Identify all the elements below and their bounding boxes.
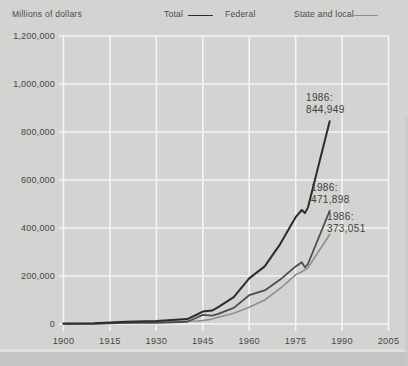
series-line-state-and-local (64, 234, 330, 323)
annotation-year: 1986: (327, 211, 366, 223)
x-tick-label: 1900 (53, 336, 75, 346)
x-tick-label: 2005 (378, 336, 400, 346)
annotation-total-1986: 1986: 844,949 (306, 92, 345, 115)
chart-figure: Millions of dollars Total Federal State … (0, 0, 408, 366)
y-tick-label: 0 (50, 319, 55, 329)
y-tick-label: 600,000 (21, 175, 55, 185)
annotation-value: 373,051 (327, 223, 366, 235)
y-tick-label: 1,000,000 (13, 79, 55, 89)
y-tick-label: 200,000 (21, 271, 55, 281)
annotation-year: 1986: (311, 182, 350, 194)
y-tick-label: 400,000 (21, 223, 55, 233)
x-tick-label: 1915 (99, 336, 121, 346)
page-edge-bottom (0, 352, 408, 366)
x-tick-label: 1945 (192, 336, 214, 346)
series-line-total (64, 121, 330, 323)
x-tick-label: 1930 (146, 336, 168, 346)
x-tick-label: 1975 (285, 336, 307, 346)
annotation-value: 844,949 (306, 104, 345, 116)
x-tick-label: 1960 (238, 336, 260, 346)
x-tick-label: 1990 (331, 336, 353, 346)
annotation-federal-1986: 1986: 471,898 (311, 182, 350, 205)
annotation-state-local-1986: 1986: 373,051 (327, 211, 366, 234)
annotation-value: 471,898 (311, 194, 350, 206)
annotation-year: 1986: (306, 92, 345, 104)
y-tick-label: 1,200,000 (13, 31, 55, 41)
y-tick-label: 800,000 (21, 127, 55, 137)
